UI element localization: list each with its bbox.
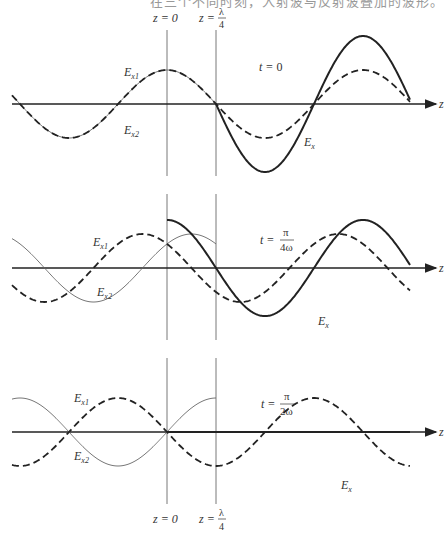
panel-t-pi-over-4-omega-labels: Ex1 Ex2 Ex t = π 4ω bbox=[92, 226, 329, 330]
time-label-t0: t = 0 bbox=[259, 60, 282, 74]
panel-t-pi-over-4-omega: z bbox=[12, 220, 444, 316]
z0-label-bottom: z = 0 bbox=[152, 512, 178, 526]
time-label-t-pi-4w-prefix: t = bbox=[260, 233, 274, 247]
z-axis-label: z bbox=[438, 425, 444, 439]
time-label-t-pi-2w-prefix: t = bbox=[261, 397, 275, 411]
top-markers: z = 0 z = λ 4 bbox=[152, 6, 226, 30]
zq-label-bottom-num: λ bbox=[219, 507, 224, 518]
zq-label-bottom-den: 4 bbox=[219, 521, 224, 532]
panel-t-pi-over-2-omega-labels: Ex1 Ex2 Ex t = π 2ω bbox=[73, 390, 352, 494]
time-label-t-pi-4w-den: 4ω bbox=[280, 241, 293, 253]
z0-label-top: z = 0 bbox=[152, 11, 178, 25]
ex2-label: Ex2 bbox=[73, 449, 89, 465]
time-label-t-pi-2w-den: 2ω bbox=[280, 405, 293, 417]
ex-label: Ex bbox=[303, 135, 315, 151]
ex1-label: Ex1 bbox=[123, 65, 139, 81]
bottom-markers: z = 0 z = λ 4 bbox=[152, 507, 226, 532]
ex1-label: Ex1 bbox=[73, 391, 89, 407]
zq-label-bottom-prefix: z = bbox=[198, 512, 215, 526]
z-axis-label: z bbox=[438, 261, 444, 275]
zq-label-top-prefix: z = bbox=[198, 11, 215, 25]
ex-label: Ex bbox=[317, 314, 329, 330]
zq-label-top-den: 4 bbox=[219, 19, 224, 30]
time-label-t-pi-2w-num: π bbox=[284, 390, 290, 402]
panel-t0: z bbox=[12, 36, 444, 172]
zq-label-top-num: λ bbox=[219, 6, 224, 17]
ex2-label: Ex2 bbox=[96, 285, 112, 301]
time-label-t-pi-4w-num: π bbox=[283, 226, 289, 238]
ex-label: Ex bbox=[340, 478, 352, 494]
wave-superposition-diagram: z = 0 z = λ 4 z = 0 z = λ 4 z z z Ex1 Ex… bbox=[0, 0, 447, 536]
ex2-label: Ex2 bbox=[123, 123, 139, 139]
z-axis-label: z bbox=[438, 97, 444, 111]
ex1-label: Ex1 bbox=[92, 235, 108, 251]
